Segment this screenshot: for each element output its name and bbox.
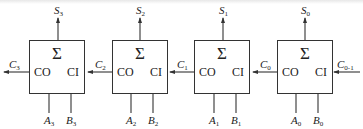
carry-in-port-label: CI (150, 65, 162, 79)
carry-label-c3: C3 (9, 58, 20, 74)
carry-in-port-label: CI (67, 65, 79, 79)
ripple-carry-adder-diagram: Σ CO CI Σ CO CI Σ CO CI Σ CO CI S3 S2 S1… (0, 0, 363, 129)
sum-label-s2: S2 (136, 4, 145, 20)
carry-out-port-label: CO (34, 65, 51, 79)
input-label-a2: A2 (126, 114, 136, 129)
sigma-symbol: Σ (30, 45, 84, 63)
sigma-symbol: Σ (113, 45, 167, 63)
full-adder-1: Σ CO CI (194, 40, 250, 94)
input-label-a0: A0 (291, 114, 301, 129)
input-label-b2: B2 (148, 114, 158, 129)
carry-out-port-label: CO (199, 65, 216, 79)
carry-label-c1: C1 (177, 58, 188, 74)
input-label-b3: B3 (66, 114, 76, 129)
full-adder-3: Σ CO CI (29, 40, 85, 94)
full-adder-2: Σ CO CI (112, 40, 168, 94)
sum-label-s3: S3 (54, 4, 63, 20)
input-label-a1: A1 (209, 114, 219, 129)
carry-label-c-minus-1: C0-1 (337, 58, 354, 74)
carry-in-port-label: CI (315, 65, 327, 79)
sigma-symbol: Σ (278, 45, 332, 63)
carry-in-port-label: CI (232, 65, 244, 79)
carry-label-c2: C2 (95, 58, 106, 74)
sum-label-s0: S0 (301, 4, 310, 20)
input-label-a3: A3 (44, 114, 54, 129)
sum-label-s1: S1 (219, 4, 228, 20)
input-label-b1: B1 (231, 114, 241, 129)
input-label-b0: B0 (313, 114, 323, 129)
sigma-symbol: Σ (195, 45, 249, 63)
carry-out-port-label: CO (117, 65, 134, 79)
carry-out-port-label: CO (282, 65, 299, 79)
carry-label-c0: C0 (260, 58, 271, 74)
full-adder-0: Σ CO CI (277, 40, 333, 94)
